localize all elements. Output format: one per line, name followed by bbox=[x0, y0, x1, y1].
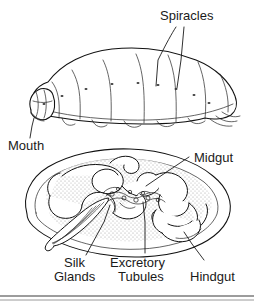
label-silk-glands-line2: Glands bbox=[54, 269, 96, 284]
figure-root: Spiracles Mouth bbox=[0, 0, 254, 307]
label-spiracles: Spiracles bbox=[160, 8, 214, 23]
label-silk-glands-line1: Silk bbox=[64, 255, 85, 270]
larva-head bbox=[30, 89, 55, 121]
footer-divider bbox=[0, 296, 254, 300]
label-mouth: Mouth bbox=[8, 138, 44, 153]
mouth-leader-line bbox=[30, 118, 34, 138]
label-excretory-tubules-line1: Excretory bbox=[110, 255, 165, 270]
larva-anatomy-figure: Spiracles Mouth bbox=[0, 0, 254, 307]
label-hindgut: Hindgut bbox=[190, 269, 235, 284]
internal-anatomy-illustration: Midgut Silk Glands Excretory Tubules Hin… bbox=[26, 149, 236, 284]
external-larva-illustration: Spiracles Mouth bbox=[8, 8, 240, 153]
label-excretory-tubules-line2: Tubules bbox=[118, 269, 164, 284]
label-midgut: Midgut bbox=[194, 150, 233, 165]
